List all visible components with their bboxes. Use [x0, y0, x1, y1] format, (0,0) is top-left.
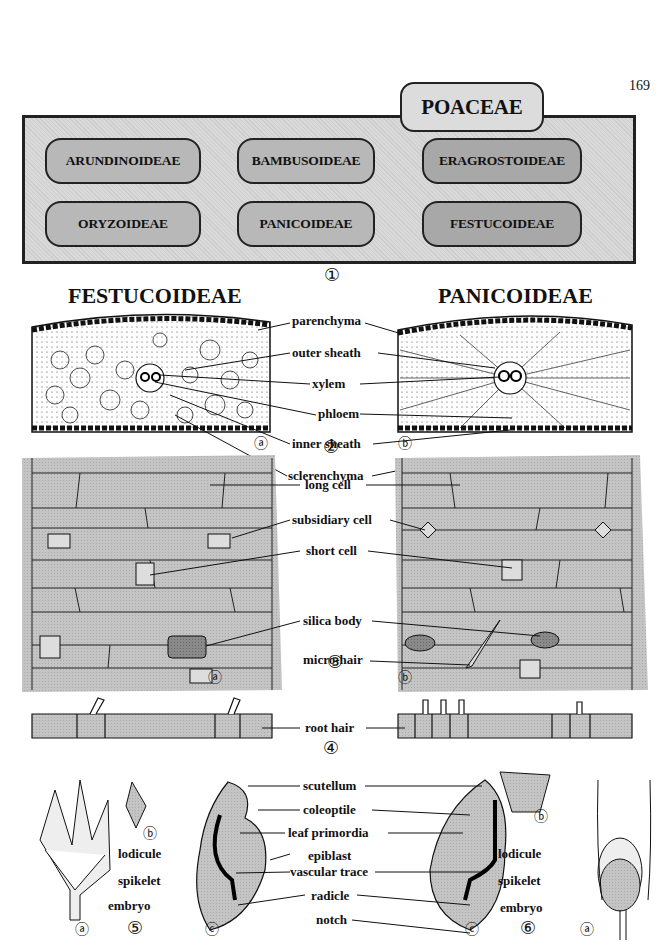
label-phloem: phloem [318, 406, 359, 422]
label-short-cell: short cell [306, 543, 357, 559]
label-radicle: radicle [311, 888, 349, 904]
figure-number-4: ④ [323, 737, 339, 758]
label-long-cell: long cell [305, 477, 351, 493]
label-lodicule-right: lodicule [498, 846, 541, 862]
label-xylem: xylem [312, 376, 345, 392]
label-silica-body: silica body [303, 613, 362, 629]
embryo-festucoid [197, 782, 266, 930]
label-notch: notch [316, 912, 347, 928]
panel-letter-3b: ⓑ [398, 666, 412, 686]
label-embryo-left: embryo [108, 898, 151, 914]
label-vascular-trace: vascular trace [290, 864, 368, 880]
panel-letter-5b: ⓑ [143, 822, 157, 842]
epidermis-panicoid [395, 455, 648, 692]
label-spikelet-right: spikelet [498, 873, 541, 889]
panel-letter-6c: ⓒ [465, 918, 479, 938]
label-outer-sheath: outer sheath [292, 345, 361, 361]
panel-letter-2b: ⓑ [398, 432, 412, 452]
figure-number-5: ⑤ [127, 917, 143, 938]
root-festucoid [32, 698, 272, 738]
panel-letter-2a: ⓐ [254, 432, 268, 452]
figure-number-6: ⑥ [520, 917, 536, 938]
figure-number-3: ③ [327, 651, 343, 672]
family-title-pill: POACEAE [400, 82, 544, 132]
leaf-section-panicoid [398, 316, 632, 432]
label-leaf-primordia: leaf primordia [288, 825, 369, 841]
leaf-section-festucoid [32, 315, 270, 432]
label-subsidiary-cell: subsidiary cell [292, 512, 372, 528]
root-panicoid [398, 700, 632, 738]
label-spikelet-left: spikelet [118, 873, 161, 889]
panel-letter-5c: ⓒ [205, 918, 219, 938]
panel-letter-5a: ⓐ [75, 918, 89, 938]
panel-letter-6a: ⓐ [580, 918, 594, 938]
label-coleoptile: coleoptile [303, 802, 356, 818]
panel-letter-6b: ⓑ [534, 805, 548, 825]
label-embryo-right: embryo [500, 900, 543, 916]
figure-number-2: ② [323, 436, 339, 457]
label-epiblast: epiblast [308, 848, 351, 864]
spikelet-panicoid [598, 780, 651, 940]
label-root-hair: root hair [305, 720, 354, 736]
spikelet-festucoid [40, 780, 110, 920]
label-scutellum: scutellum [303, 778, 356, 794]
label-lodicule-left: lodicule [118, 846, 161, 862]
panel-letter-3a: ⓐ [208, 666, 222, 686]
label-parenchyma: parenchyma [292, 313, 361, 329]
epidermis-festucoid [22, 455, 282, 692]
